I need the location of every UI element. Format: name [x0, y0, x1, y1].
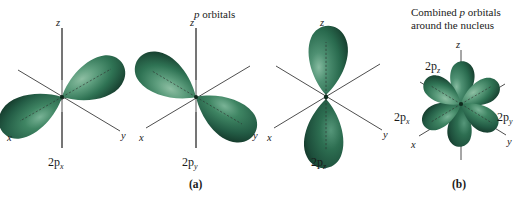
panel-b-caption-pre: Combined [411, 6, 460, 18]
lobe-2pz-positive [309, 26, 348, 95]
panel-a-title-rest: orbitals [200, 8, 236, 20]
panel-b-caption-post: orbitals [465, 6, 501, 18]
lobe-2py-negative [127, 43, 207, 112]
combined-label-2px-sub: x [405, 117, 410, 126]
y-axis-label-2px: y [120, 130, 126, 141]
x-axis-label-2px: x [6, 132, 12, 143]
nucleus-2px [60, 95, 64, 99]
combined-label-2pz-main: 2p [425, 59, 437, 73]
x-axis-label-combined: x [410, 139, 416, 150]
nucleus-2pz [324, 95, 328, 99]
lobe-2pz-negative [304, 99, 343, 168]
lobe-2px-positive [53, 47, 133, 116]
panel-a-letter: (a) [189, 178, 203, 191]
orbital-diagram-2px: z x y 2px [0, 17, 133, 171]
figure-canvas: p orbitals z x y 2px [0, 0, 520, 197]
orbital-label-2py: 2py [182, 155, 198, 171]
p-orbitals-figure: p orbitals z x y 2px [0, 0, 520, 197]
x-axis-label-2py: x [138, 132, 144, 143]
panel-b-letter: (b) [452, 178, 466, 191]
orbital-diagram-2py: z x y 2py [127, 17, 264, 171]
y-axis-label-2py: y [252, 130, 258, 141]
y-axis-label-2pz: y [382, 129, 388, 140]
y-axis-label-combined: y [506, 136, 512, 147]
combined-label-2pz-sub: z [436, 66, 441, 75]
combined-label-2px: 2px [394, 110, 410, 126]
orbital-label-2py-sub: y [193, 162, 198, 171]
orbital-label-2px-sub: x [59, 162, 64, 171]
panel-a-title: p orbitals [193, 8, 235, 20]
orbital-diagram-2pz: z x y 2pz [266, 17, 388, 171]
combined-label-2pz: 2pz [425, 59, 441, 75]
nucleus-combined [459, 102, 463, 106]
z-axis-label-combined: z [455, 39, 460, 50]
orbital-label-2px: 2px [48, 155, 64, 171]
panel-b-caption-line2: around the nucleus [411, 19, 494, 31]
orbital-label-2py-main: 2p [182, 155, 194, 169]
orbital-label-2pz-main: 2p [311, 155, 323, 169]
z-axis-label-2pz: z [319, 17, 324, 28]
panel-b-caption-line1: Combined p orbitals [411, 6, 501, 18]
combined-label-2py-sub: y [508, 117, 513, 126]
orbital-label-2px-main: 2p [48, 155, 60, 169]
nucleus-2py [194, 95, 198, 99]
combined-orbitals-panel: Combined p orbitals around the nucleus [394, 6, 513, 191]
combined-label-2px-main: 2p [394, 110, 406, 124]
z-axis-label-2py: z [189, 17, 194, 28]
combined-label-2py: 2py [497, 110, 513, 126]
z-axis-label-2px: z [55, 17, 60, 28]
combined-label-2py-main: 2p [497, 110, 509, 124]
x-axis-label-2pz: x [266, 132, 272, 143]
